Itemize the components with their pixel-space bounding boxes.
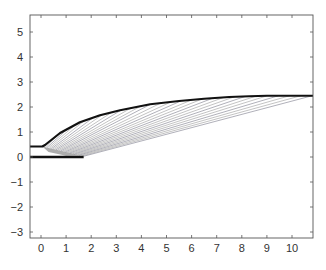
x-tick-label: 1 [63,242,69,254]
fan-line [84,96,312,157]
y-axis-ticks: −3−2−1012345 [10,26,313,238]
fan-line [65,101,181,152]
x-tick-label: 10 [286,242,298,254]
y-tick-label: −3 [10,226,23,238]
x-tick-label: 3 [113,242,119,254]
fan-line [74,96,245,154]
fan-line [81,96,290,156]
x-tick-label: 6 [189,242,195,254]
y-tick-label: 0 [17,151,23,163]
x-tick-label: 4 [138,242,144,254]
fan-line [76,96,256,154]
y-tick-label: 4 [17,51,23,63]
y-tick-label: 1 [17,126,23,138]
caption [0,258,326,270]
x-tick-label: 7 [214,242,220,254]
chart: 012345678910 −3−2−1012345 [0,0,326,270]
y-tick-label: −2 [10,201,23,213]
x-tick-label: 2 [88,242,94,254]
y-tick-label: 2 [17,101,23,113]
fan-line [73,97,234,154]
x-tick-label: 9 [264,242,270,254]
y-tick-label: 3 [17,76,23,88]
plot-area [30,96,314,157]
fan-line [82,96,301,156]
y-tick-label: 5 [17,26,23,38]
fan-line [79,96,278,155]
y-tick-label: −1 [10,176,23,188]
x-tick-label: 5 [163,242,169,254]
x-tick-label: 0 [38,242,44,254]
x-tick-label: 8 [239,242,245,254]
